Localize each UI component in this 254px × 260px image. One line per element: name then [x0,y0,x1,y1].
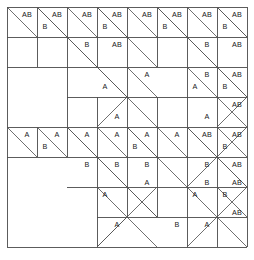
cell-label-b: B [162,22,167,31]
cell-label-b: B [114,160,119,169]
cell-label-b: B [222,142,227,151]
cell-label-a: A [144,178,149,187]
cell-label-ab: AB [232,100,242,109]
cell-label-ab: AB [142,10,152,19]
cell-label-b: B [144,160,149,169]
cell-label-b: B [222,82,227,91]
cell-label-b: B [174,220,179,229]
cell-label-a: A [192,82,197,91]
cell-label-a: A [174,130,179,139]
cell-label-ab: AB [112,40,122,49]
cell-label-ab: AB [232,160,242,169]
cell-label-a: A [204,112,209,121]
cell-label-ab: AB [22,10,32,19]
cell-label-b: B [204,40,209,49]
tiling-svg: ABABBABABBABABBABABBBABBABAABAABBAABAAAB… [0,0,254,260]
cell-label-a: A [114,112,119,121]
cell-label-b: B [204,178,209,187]
cell-label-a: A [102,82,107,91]
cell-label-ab: AB [82,10,92,19]
cell-label-a: A [144,70,149,79]
cell-label-ab: AB [172,10,182,19]
cell-label-ab: AB [202,10,212,19]
cell-label-a: A [84,130,89,139]
cell-label-b: B [102,22,107,31]
cell-label-b: B [132,142,137,151]
cell-label-a: A [24,130,29,139]
cell-label-ab: AB [232,130,242,139]
cell-label-b: B [222,190,227,199]
cell-label-a: A [102,190,107,199]
cell-label-b: B [84,160,89,169]
cell-label-ab: AB [232,70,242,79]
cell-label-ab: AB [112,10,122,19]
cell-label-ab: AB [232,10,242,19]
cell-label-ab: AB [232,178,242,187]
cell-label-b: B [204,70,209,79]
cell-label-ab: AB [232,40,242,49]
tiling-figure: ABABBABABBABABBABABBBABBABAABAABBAABAAAB… [0,0,254,260]
cell-label-b: B [42,22,47,31]
cell-label-a: A [114,220,119,229]
cell-label-b: B [222,22,227,31]
cell-label-ab: AB [52,10,62,19]
cell-label-a: A [144,130,149,139]
cell-label-a: A [114,130,119,139]
cell-label-b: B [84,40,89,49]
cell-label-a: A [192,190,197,199]
cell-label-b: B [204,160,209,169]
cell-label-ab: AB [202,130,212,139]
cell-label-a: A [204,220,209,229]
cell-label-b: B [42,142,47,151]
cell-label-ab: AB [232,208,242,217]
cell-label-a: A [54,130,59,139]
